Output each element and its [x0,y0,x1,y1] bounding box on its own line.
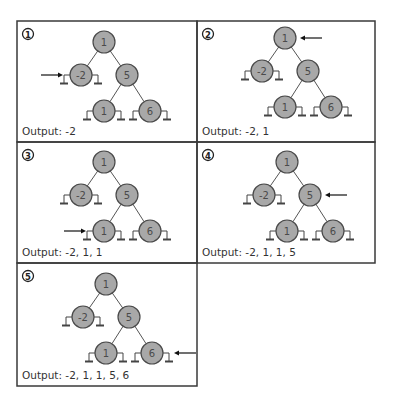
svg-text:1: 1 [103,348,109,359]
tree-edge [133,84,144,101]
null-child-ground-icon [94,317,104,326]
svg-text:5: 5 [305,66,311,77]
svg-text:1: 1 [284,157,290,168]
tree-edge [293,171,303,186]
null-child-ground-icon [161,231,171,240]
step-number-badge: 5 [23,271,34,282]
null-child-ground-icon [264,107,274,116]
output-text: Output: -2, 1, 1, 5, 6 [22,369,130,381]
tree-edge [268,47,278,62]
tree-node-root: 1 [93,31,115,53]
null-child-ground-icon [117,353,127,362]
tree-edge [110,204,121,221]
svg-text:1: 1 [25,30,31,40]
step-panel-3: 31-2516Output: -2, 1, 1 [17,142,197,263]
svg-text:6: 6 [147,226,153,237]
svg-text:2: 2 [205,30,211,40]
tree-node-right-left: 1 [93,100,115,122]
null-child-ground-icon [266,231,276,240]
svg-text:5: 5 [126,312,132,323]
null-child-ground-icon [60,195,70,204]
step-number-badge: 2 [203,29,214,40]
output-text: Output: -2 [22,125,76,137]
svg-text:4: 4 [205,151,211,161]
svg-text:3: 3 [25,151,31,161]
tree-node-right-right: 6 [139,100,161,122]
tree-node-left: -2 [253,184,275,206]
svg-text:6: 6 [328,102,334,113]
svg-text:6: 6 [149,348,155,359]
current-node-arrow-icon [174,351,196,356]
output-text: Output: -2, 1, 1 [22,246,103,258]
null-child-ground-icon [273,71,283,80]
tree-edge [112,326,123,343]
null-child-ground-icon [129,231,139,240]
tree-edge [133,204,144,221]
step-number-badge: 4 [203,150,214,161]
tree-node-left: -2 [70,184,92,206]
null-child-ground-icon [85,353,95,362]
null-child-ground-icon [243,195,253,204]
svg-text:-2: -2 [259,190,269,201]
tree-edge [316,204,327,221]
tree-node-right: 5 [116,64,138,86]
current-node-arrow-icon [300,36,322,41]
tree-edge [89,293,99,308]
svg-text:-2: -2 [76,190,86,201]
svg-text:5: 5 [124,190,130,201]
current-node-arrow-icon [41,73,63,78]
svg-text:5: 5 [25,272,31,282]
tree-edge [110,51,120,66]
tree-edge [291,47,301,62]
null-child-ground-icon [129,111,139,120]
svg-text:1: 1 [284,226,290,237]
tree-node-right-left: 1 [274,96,296,118]
svg-text:1: 1 [101,37,107,48]
traversal-diagram: 11-2516Output: -221-2516Output: -2, 131-… [0,0,395,403]
null-child-ground-icon [310,107,320,116]
null-child-ground-icon [92,75,102,84]
svg-text:1: 1 [101,157,107,168]
tree-node-left: -2 [70,64,92,86]
svg-text:-2: -2 [76,70,86,81]
tree-node-root: 1 [274,27,296,49]
tree-node-right-left: 1 [95,342,117,364]
step-panel-4: 41-2516Output: -2, 1, 1, 5 [197,142,375,263]
tree-node-right: 5 [297,60,319,82]
tree-edge [293,204,304,221]
tree-node-right-right: 6 [141,342,163,364]
tree-edge [314,80,325,97]
null-child-ground-icon [163,353,173,362]
null-child-ground-icon [161,111,171,120]
step-panel-5: 51-2516Output: -2, 1, 1, 5, 6 [17,263,197,386]
output-text: Output: -2, 1 [202,125,269,137]
null-child-ground-icon [83,231,93,240]
null-child-ground-icon [275,195,285,204]
svg-text:1: 1 [103,279,109,290]
svg-text:1: 1 [101,226,107,237]
svg-text:1: 1 [282,102,288,113]
tree-edge [110,171,120,186]
step-panel-2: 21-2516Output: -2, 1 [197,21,375,142]
svg-text:-2: -2 [78,312,88,323]
null-child-ground-icon [60,75,70,84]
null-child-ground-icon [83,111,93,120]
svg-text:6: 6 [330,226,336,237]
current-node-arrow-icon [64,229,86,234]
step-number-badge: 3 [23,150,34,161]
null-child-ground-icon [62,317,72,326]
null-child-ground-icon [92,195,102,204]
null-child-ground-icon [131,353,141,362]
svg-text:5: 5 [124,70,130,81]
tree-node-right-right: 6 [320,96,342,118]
svg-text:5: 5 [307,190,313,201]
svg-text:1: 1 [282,33,288,44]
null-child-ground-icon [312,231,322,240]
current-node-arrow-icon [325,193,347,198]
tree-edge [110,84,121,101]
null-child-ground-icon [344,231,354,240]
tree-node-left: -2 [72,306,94,328]
tree-edge [135,326,146,343]
null-child-ground-icon [296,107,306,116]
null-child-ground-icon [115,111,125,120]
